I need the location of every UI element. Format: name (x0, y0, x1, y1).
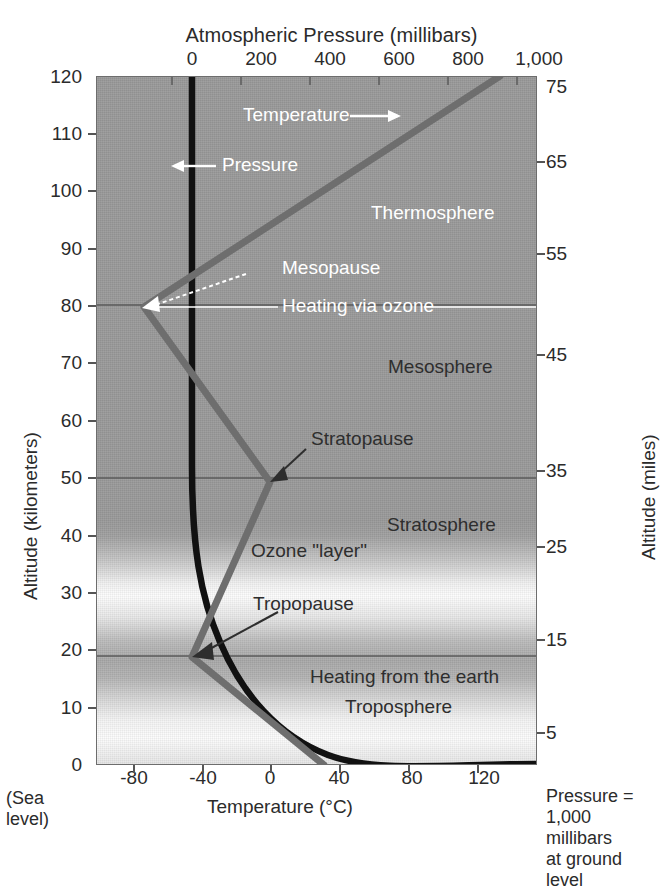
tick-left-20 (88, 649, 96, 651)
tick-right-35 (537, 470, 545, 472)
left-axis-tick-110: 110 (22, 123, 82, 145)
left-axis-tick-100: 100 (22, 180, 82, 202)
left-axis-tick-70: 70 (22, 352, 82, 374)
ground-pressure-note: Pressure = 1,000 millibars at ground lev… (546, 786, 634, 891)
tick-left-10 (88, 707, 96, 709)
right-axis-title: Altitude (miles) (638, 434, 660, 560)
annotation-troposphere: Troposphere (345, 696, 452, 718)
figure-root: Atmospheric Pressure (millibars) 0 200 4… (0, 0, 663, 891)
left-axis-tick-0: 0 (22, 754, 82, 776)
ground-pressure-line2: 1,000 (546, 807, 591, 827)
ground-pressure-line1: Pressure = (546, 786, 634, 806)
annotation-heating-via-ozone: Heating via ozone (282, 295, 434, 317)
tick-left-100 (88, 190, 96, 192)
tick-left-50 (88, 477, 96, 479)
right-axis-tick-35: 35 (546, 460, 567, 482)
top-axis-tick-800: 800 (442, 48, 494, 70)
tick-left-70 (88, 362, 96, 364)
annotation-stratosphere: Stratosphere (387, 514, 496, 536)
tick-left-60 (88, 420, 96, 422)
annotation-mesopause: Mesopause (282, 257, 380, 279)
left-axis-tick-80: 80 (22, 295, 82, 317)
bottom-axis-tick-120: 120 (454, 767, 514, 789)
tick-right-15 (537, 639, 545, 641)
tick-right-25 (537, 546, 545, 548)
right-axis-tick-15: 15 (546, 629, 567, 651)
left-axis-tick-90: 90 (22, 238, 82, 260)
top-axis-tick-1000: 1,000 (503, 48, 575, 70)
bottom-axis-title: Temperature (°C) (0, 796, 560, 818)
annotation-tropopause: Tropopause (253, 593, 354, 615)
top-axis-tick-200: 200 (235, 48, 287, 70)
tick-right-65 (537, 161, 545, 163)
tick-right-5 (537, 732, 545, 734)
annotation-ozone-layer: Ozone "layer" (251, 540, 367, 562)
top-axis-tick-400: 400 (304, 48, 356, 70)
tick-bottom-0 (270, 765, 272, 773)
ground-pressure-line5: level (546, 870, 583, 890)
top-axis-tick-0: 0 (171, 48, 213, 70)
ground-pressure-line3: millibars (546, 828, 612, 848)
temperature-label-arrow (350, 110, 401, 122)
pressure-curve (192, 76, 537, 765)
sea-level-note: (Sea level) (6, 788, 49, 830)
annotation-heating-from-earth: Heating from the earth (310, 666, 499, 688)
tick-left-30 (88, 592, 96, 594)
top-axis-tick-600: 600 (373, 48, 425, 70)
left-axis-tick-120: 120 (22, 66, 82, 88)
top-axis-inner-ticks (172, 76, 517, 85)
left-axis-tick-60: 60 (22, 410, 82, 432)
right-axis-tick-55: 55 (546, 243, 567, 265)
top-axis-title: Atmospheric Pressure (millibars) (0, 24, 663, 47)
tick-bottom-neg80 (133, 765, 135, 773)
right-axis-tick-5: 5 (546, 722, 557, 744)
annotation-stratopause: Stratopause (311, 428, 413, 450)
ground-pressure-line4: at ground (546, 849, 622, 869)
annotation-mesosphere: Mesosphere (388, 356, 493, 378)
temperature-curve (144, 76, 500, 765)
tick-right-45 (537, 354, 545, 356)
tick-left-80 (88, 305, 96, 307)
tick-bottom-120 (477, 765, 479, 773)
annotation-pressure: Pressure (222, 154, 298, 176)
plot-area: Temperature Pressure Thermosphere Mesopa… (96, 76, 537, 765)
tick-bottom-neg40 (202, 765, 204, 773)
annotation-thermosphere: Thermosphere (371, 202, 495, 224)
right-axis-tick-65: 65 (546, 151, 567, 173)
tick-left-40 (88, 535, 96, 537)
sea-level-note-line1: (Sea (6, 788, 44, 808)
right-axis-tick-25: 25 (546, 536, 567, 558)
tick-bottom-80 (408, 765, 410, 773)
tick-right-55 (537, 253, 545, 255)
sea-level-note-line2: level) (6, 809, 49, 829)
stratopause-callout-arrow (270, 449, 306, 482)
right-axis-tick-75: 75 (546, 76, 567, 98)
chart-svg (96, 76, 537, 765)
left-axis-tick-10: 10 (22, 697, 82, 719)
tick-left-110 (88, 133, 96, 135)
left-axis-tick-20: 20 (22, 639, 82, 661)
left-axis-title: Altitude (kilometers) (20, 432, 42, 600)
tick-bottom-40 (339, 765, 341, 773)
tick-left-90 (88, 248, 96, 250)
bottom-axis-tick-80: 80 (387, 767, 437, 789)
right-axis-tick-45: 45 (546, 344, 567, 366)
annotation-temperature: Temperature (243, 104, 350, 126)
